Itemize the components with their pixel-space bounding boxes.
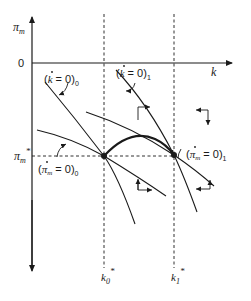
transition-path [104,136,174,156]
pi-star-label: πm* [14,146,31,165]
dot-accent [194,146,196,148]
kdot0-curve-1 [116,70,197,212]
arrow-pair-left-down [196,110,208,125]
kdot0-curve-0 [45,82,135,224]
equilibrium-point-1 [171,152,177,158]
label-leaders [57,83,181,158]
kdot0-label-0: (k = 0)0 [44,73,79,87]
y-axis-label: πm [13,20,25,36]
k0-star-label: k0* [101,266,115,286]
dot-accent [51,71,53,73]
equilibrium-point-0 [101,153,107,159]
x-axis-label: k [211,65,217,79]
k1-star-label: k1* [171,266,185,286]
pidot0-label-1: (πm = 0)1 [186,148,227,162]
arrow-pair-up-right-1 [138,107,150,120]
origin-label: 0 [18,57,24,69]
pidot0-label-0: (πm = 0)0 [38,163,79,177]
dot-accent [46,161,48,163]
phase-diagram: πm 0 k πm* k0* k1* (k = 0)0 (k = 0)1 (πm… [0,0,251,301]
dot-accent [123,65,125,67]
kdot0-label-1: (k = 0)1 [116,67,151,81]
reference-lines [32,14,174,268]
